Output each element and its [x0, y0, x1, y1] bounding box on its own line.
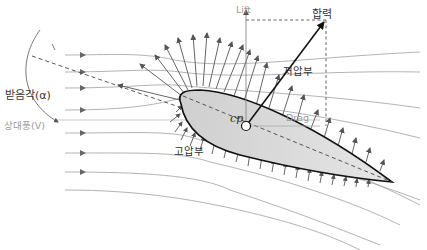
- lift-label: Lift: [236, 5, 251, 15]
- relative-wind-label: 상대풍(V): [4, 121, 45, 131]
- low-pressure-label: 저압부: [283, 66, 313, 77]
- high-pressure-label: 고압부: [174, 146, 204, 157]
- drag-label: Drag: [286, 113, 309, 123]
- angle-arc: [26, 30, 58, 122]
- angle-of-attack-label: 받음각(α): [5, 90, 51, 101]
- flow-arrows: [80, 52, 86, 175]
- airfoil-pressure-diagram: [0, 0, 427, 250]
- resultant-label: 합력: [312, 9, 332, 20]
- center-of-pressure-label: cp: [230, 113, 243, 124]
